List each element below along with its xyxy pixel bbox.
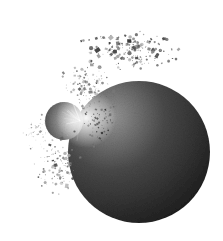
collision-illustration (0, 0, 223, 241)
impact-flash (56, 88, 116, 148)
